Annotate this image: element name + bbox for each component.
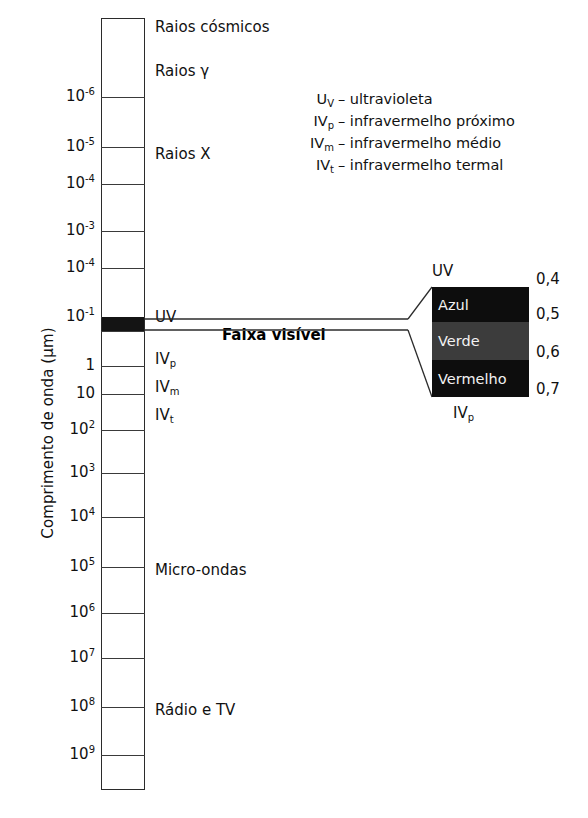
scale-tick-line xyxy=(101,658,145,659)
scale-tick-label: 103 xyxy=(0,465,95,480)
scale-tick-label: 102 xyxy=(0,422,95,437)
legend-key: IVm xyxy=(300,132,334,154)
scale-tick-line xyxy=(101,707,145,708)
scale-tick-line xyxy=(101,147,145,148)
scale-tick-line xyxy=(101,331,145,332)
electromagnetic-spectrum-figure: Comprimento de onda (µm) 10-610-510-410-… xyxy=(0,0,588,818)
scale-tick-label: 1 xyxy=(0,358,95,373)
legend-row: IVp– infravermelho próximo xyxy=(300,110,515,132)
scale-tick-label: 10-4 xyxy=(0,176,95,191)
legend-row: IVt– infravermelho termal xyxy=(300,154,515,176)
scale-tick-line xyxy=(101,473,145,474)
scale-tick-line xyxy=(101,755,145,756)
inset-tick-label: 0,6 xyxy=(536,343,560,361)
abbreviation-legend: UV– ultravioletaIVp– infravermelho próxi… xyxy=(300,88,515,176)
spectrum-band-label: Raios cósmicos xyxy=(155,20,269,35)
spectrum-band-label: UV xyxy=(155,310,176,325)
spectrum-band-label: IVp xyxy=(155,352,176,367)
scale-tick-line xyxy=(101,184,145,185)
scale-tick-label: 104 xyxy=(0,509,95,524)
scale-tick-line xyxy=(101,394,145,395)
scale-tick-label: 10-3 xyxy=(0,223,95,238)
scale-tick-line xyxy=(101,231,145,232)
legend-description: – ultravioleta xyxy=(338,91,433,107)
scale-tick-label: 10 xyxy=(0,386,95,401)
inset-ivp-label: IVp xyxy=(453,404,474,422)
scale-tick-label: 10-1 xyxy=(0,309,95,324)
scale-tick-label: 10-4 xyxy=(0,260,95,275)
legend-description: – infravermelho próximo xyxy=(338,113,515,129)
scale-tick-line xyxy=(101,430,145,431)
spectrum-band-label: Raios X xyxy=(155,147,211,162)
inset-tick-label: 0,4 xyxy=(536,270,560,288)
spectrum-scale-bar xyxy=(101,18,145,790)
scale-tick-label: 10-6 xyxy=(0,89,95,104)
spectrum-band-label: IVm xyxy=(155,380,179,395)
inset-colour-band-label: Azul xyxy=(438,297,469,313)
spectrum-band-label: Micro-ondas xyxy=(155,563,247,578)
legend-row: UV– ultravioleta xyxy=(300,88,515,110)
visible-band-marker xyxy=(102,317,144,331)
scale-tick-label: 106 xyxy=(0,605,95,620)
scale-tick-label: 108 xyxy=(0,699,95,714)
scale-tick-line xyxy=(101,268,145,269)
scale-tick-label: 109 xyxy=(0,747,95,762)
scale-tick-line xyxy=(101,567,145,568)
scale-tick-label: 105 xyxy=(0,559,95,574)
inset-tick-label: 0,5 xyxy=(536,305,560,323)
scale-tick-line xyxy=(101,613,145,614)
scale-tick-line xyxy=(101,97,145,98)
scale-tick-line xyxy=(101,517,145,518)
legend-description: – infravermelho médio xyxy=(338,135,501,151)
inset-colour-band: Vermelho xyxy=(432,360,529,397)
inset-colour-band: Azul xyxy=(432,287,529,322)
spectrum-band-label: Raios γ xyxy=(155,64,209,79)
legend-key: UV xyxy=(300,88,334,110)
legend-key: IVt xyxy=(300,154,334,176)
inset-colour-band-label: Verde xyxy=(438,333,480,349)
legend-key: IVp xyxy=(300,110,334,132)
inset-uv-label: UV xyxy=(432,262,453,280)
legend-description: – infravermelho termal xyxy=(338,157,503,173)
scale-tick-line xyxy=(101,366,145,367)
scale-tick-label: 107 xyxy=(0,650,95,665)
legend-row: IVm– infravermelho médio xyxy=(300,132,515,154)
scale-tick-label: 10-5 xyxy=(0,139,95,154)
visible-spectrum-inset: AzulVerdeVermelho xyxy=(432,287,529,397)
inset-colour-band: Verde xyxy=(432,322,529,360)
spectrum-band-label: Rádio e TV xyxy=(155,703,235,718)
inset-tick-label: 0,7 xyxy=(536,380,560,398)
visible-range-label: Faixa visível xyxy=(222,326,326,344)
inset-colour-band-label: Vermelho xyxy=(438,371,507,387)
spectrum-band-label: IVt xyxy=(155,408,174,423)
